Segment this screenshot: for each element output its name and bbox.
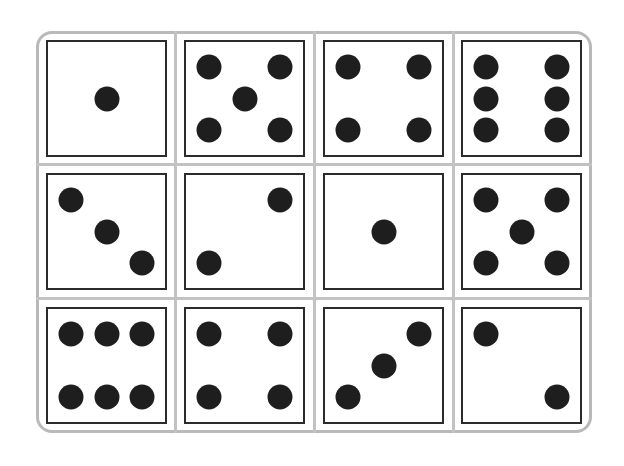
grid-divider-h1 [36,163,592,166]
pip-icon [94,385,119,410]
pip-icon [474,251,499,276]
pip-icon [129,385,154,410]
pip-icon [232,86,257,111]
pip-icon [197,251,222,276]
die-face-1 [46,40,167,157]
pip-icon [474,86,499,111]
pip-icon [406,54,431,79]
die-face-3 [46,173,167,290]
die-face-6 [461,40,582,157]
pip-icon [94,219,119,244]
pip-icon [336,54,361,79]
pip-icon [59,321,84,346]
pip-icon [129,321,154,346]
pip-icon [94,86,119,111]
pip-icon [474,118,499,143]
pip-icon [267,187,292,212]
die-face-5 [461,173,582,290]
die-face-4 [323,40,444,157]
grid-divider-h2 [36,297,592,300]
pip-icon [509,219,534,244]
pip-icon [94,321,119,346]
pip-icon [267,54,292,79]
pip-icon [544,54,569,79]
pip-icon [197,54,222,79]
pip-icon [59,187,84,212]
pip-icon [544,187,569,212]
die-face-4 [184,307,305,424]
grid-divider-v3 [452,31,455,433]
pip-icon [371,353,396,378]
pip-icon [129,251,154,276]
pip-icon [336,118,361,143]
pip-icon [197,385,222,410]
pip-icon [267,321,292,346]
grid-divider-v1 [174,31,177,433]
pip-icon [336,385,361,410]
die-face-3 [323,307,444,424]
pip-icon [544,86,569,111]
pip-icon [544,118,569,143]
pip-icon [474,321,499,346]
pip-icon [406,118,431,143]
die-face-6 [46,307,167,424]
pip-icon [371,219,396,244]
die-face-2 [461,307,582,424]
pip-icon [59,385,84,410]
die-face-1 [323,173,444,290]
die-face-2 [184,173,305,290]
grid-divider-v2 [313,31,316,433]
pip-icon [267,385,292,410]
pip-icon [197,118,222,143]
pip-icon [544,251,569,276]
pip-icon [406,321,431,346]
die-face-5 [184,40,305,157]
pip-icon [267,118,292,143]
pip-icon [474,54,499,79]
pip-icon [197,321,222,346]
pip-icon [474,187,499,212]
pip-icon [544,385,569,410]
